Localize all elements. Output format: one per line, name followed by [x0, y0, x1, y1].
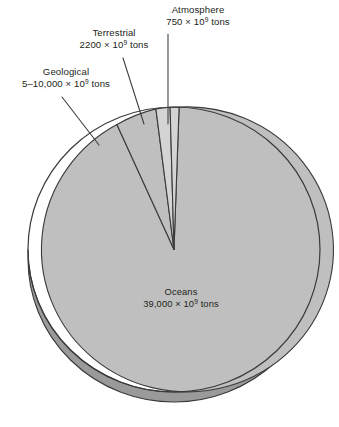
slice-label-oceans-name: Oceans — [120, 286, 242, 298]
slice-label-atmosphere-name: Atmosphere — [146, 4, 250, 16]
pie-slice-oceans[interactable] — [41, 107, 333, 392]
slice-label-oceans-value: 39,000 × 109 tons — [120, 298, 242, 310]
slice-label-geological-name: Geological — [2, 66, 130, 78]
slice-label-terrestrial-name: Terrestrial — [60, 27, 168, 39]
slice-label-terrestrial-value: 2200 × 109 tons — [60, 39, 168, 51]
slice-label-terrestrial: Terrestrial 2200 × 109 tons — [60, 27, 168, 51]
slice-label-geological: Geological 5–10,000 × 109 tons — [2, 66, 130, 90]
slice-label-oceans: Oceans 39,000 × 109 tons — [120, 286, 242, 310]
slice-label-geological-value: 5–10,000 × 109 tons — [2, 78, 130, 90]
pie-slices — [41, 107, 333, 392]
slice-label-atmosphere: Atmosphere 750 × 109 tons — [146, 4, 250, 28]
slice-label-atmosphere-value: 750 × 109 tons — [146, 16, 250, 28]
pie-chart-figure: Geological 5–10,000 × 109 tons Terrestri… — [0, 0, 339, 427]
pie-chart-canvas — [0, 0, 339, 427]
leader-line-geological — [62, 97, 99, 145]
